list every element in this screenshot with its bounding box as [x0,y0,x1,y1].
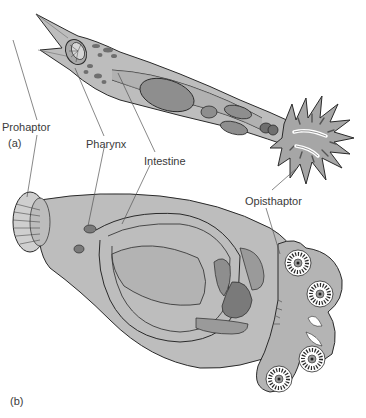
label-opisthaptor: Opisthaptor [245,195,302,207]
label-intestine: Intestine [144,155,186,167]
sucker-4 [266,366,292,392]
leader-prohaptor-a [13,40,37,120]
prohaptor-b [13,192,50,252]
sucker-2 [307,281,333,307]
label-pharynx: Pharynx [86,138,127,150]
worm-b [13,192,342,392]
panel-label-b: (b) [10,395,23,407]
monogenean-anatomy-diagram: Prohaptor (a) Pharynx Intestine Opisthap… [0,0,366,418]
opisthaptor-a [270,96,354,184]
sucker-1 [285,250,311,276]
worm-a [36,14,354,184]
panel-label-a: (a) [8,137,21,149]
leader-opisthaptor-a [272,168,297,190]
leader-prohaptor-b [27,135,37,197]
sucker-3 [299,346,325,372]
label-prohaptor: Prohaptor [2,121,51,133]
